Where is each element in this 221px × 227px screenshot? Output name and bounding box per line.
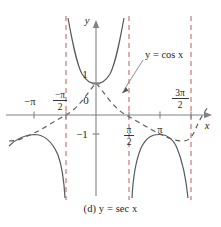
- sec-cosine-plot: y x 0 1 −1 −π −π 2 π 2 π 3π 2: [0, 0, 221, 204]
- x-tick-three-half-pi-numerator: 3π: [175, 88, 185, 98]
- secant-curve: [9, 18, 188, 198]
- x-tick-three-half-pi-denominator: 2: [178, 100, 183, 110]
- x-tick-label-neg-pi: −π: [24, 96, 36, 107]
- cosine-annotation-leader: [124, 60, 143, 90]
- figure-caption: (d) y = sec x: [0, 203, 221, 214]
- asymptote-group: [66, 16, 191, 200]
- y-axis-label: y: [84, 15, 90, 26]
- figure-container: y x 0 1 −1 −π −π 2 π 2 π 3π 2: [0, 0, 221, 227]
- x-tick-neg-half-pi-numerator: −π: [55, 90, 65, 100]
- x-tick-half-pi-denominator: 2: [127, 137, 132, 147]
- cosine-annotation-label: y = cos x: [145, 49, 184, 60]
- y-tick-label-neg-one: −1: [76, 128, 88, 140]
- x-axis-label: x: [204, 120, 210, 131]
- y-axis-arrowhead: [93, 20, 99, 28]
- secant-branch-right: [132, 135, 188, 199]
- cosine-annotation: y = cos x: [122, 49, 185, 94]
- x-tick-label-pi: π: [157, 124, 163, 135]
- x-tick-half-pi-numerator: π: [127, 125, 132, 135]
- secant-branch-left: [9, 135, 65, 199]
- x-tick-label-three-half-pi: 3π 2: [172, 88, 189, 110]
- x-tick-label-neg-half-pi: −π 2: [53, 90, 67, 112]
- x-tick-neg-half-pi-denominator: 2: [58, 102, 63, 112]
- origin-label: 0: [83, 94, 89, 106]
- y-tick-label-one: 1: [82, 68, 88, 80]
- x-axis-arrowhead: [204, 112, 212, 118]
